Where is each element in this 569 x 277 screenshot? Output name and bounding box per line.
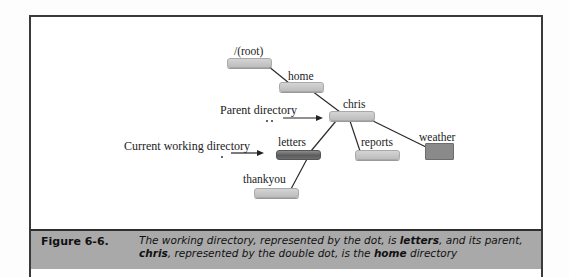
node-label-reports: reports [361,137,393,149]
caption-line1-a: The working directory, represented by th… [139,234,400,246]
parent-directory-label: Parent directory [220,104,297,116]
caption-line1-b: , and its parent, [439,234,523,246]
caption-bold-letters: letters [400,234,439,246]
caption-text: The working directory, represented by th… [139,234,539,260]
double-dot-1 [266,120,268,122]
figure-number: Figure 6-6. [41,235,109,248]
node-label-home: home [288,71,314,83]
edge-chris-reports [350,121,360,151]
edge-home-chris [312,91,340,112]
edge-chris-letters [311,121,336,151]
edge-root-home [268,66,289,83]
node-label-letters: letters [278,137,306,149]
folder-letters-current [276,150,321,160]
folder-root [227,58,272,68]
folder-reports [355,150,400,160]
folder-thankyou [254,188,299,198]
caption-bold-home: home [374,247,407,259]
double-dot-2 [271,120,273,122]
node-label-thankyou: thankyou [243,174,286,186]
node-label-root: /(root) [234,46,263,58]
node-label-chris: chris [343,99,365,111]
current-directory-label: Current working directory [124,140,250,152]
node-label-weather: weather [419,132,455,144]
caption-line2-a: , represented by the double dot, is the [168,247,374,259]
folder-chris [329,111,375,121]
single-dot [221,156,223,158]
caption-line2-b: directory [407,247,458,259]
folder-home [279,82,324,92]
file-weather [425,143,454,160]
caption-bold-chris: chris [139,247,168,259]
figure-caption: Figure 6-6. The working directory, repre… [29,229,543,269]
edge-letters-thankyou [291,159,307,189]
